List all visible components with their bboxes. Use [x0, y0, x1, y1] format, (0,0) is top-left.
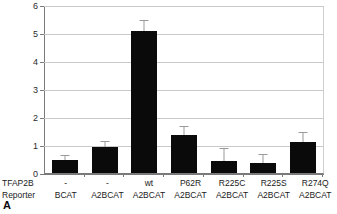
x-category-label: -A2BCAT	[87, 176, 129, 202]
panel-letter: A	[3, 200, 11, 211]
bar	[131, 31, 157, 174]
error-bar-whisker	[64, 156, 65, 159]
bar	[250, 163, 276, 173]
y-tick-mark	[40, 34, 44, 35]
bar	[290, 142, 316, 173]
bar	[211, 161, 237, 173]
x-category-label: -BCAT	[45, 176, 87, 202]
error-bar-whisker	[303, 133, 304, 142]
error-bar-cap	[60, 155, 69, 156]
error-bar-whisker	[104, 142, 105, 148]
error-bar-cap	[259, 154, 268, 155]
x-category-label: R274QA2BCAT	[294, 176, 336, 202]
bar-slot	[85, 6, 125, 173]
y-tick-mark	[40, 90, 44, 91]
error-bar-whisker	[144, 21, 145, 31]
x-category-label: R225CA2BCAT	[211, 176, 253, 202]
x-label-reporter-value: A2BCAT	[257, 189, 289, 201]
y-tick-mark	[40, 118, 44, 119]
bar	[171, 135, 197, 173]
x-label-reporter-value: A2BCAT	[91, 189, 123, 201]
bar	[92, 147, 118, 173]
x-category-label: P62RA2BCAT	[170, 176, 212, 202]
x-label-reporter-value: A2BCAT	[133, 189, 165, 201]
bar-slot	[244, 6, 284, 173]
plot-area: 0123456	[44, 6, 324, 174]
bar-slot	[45, 6, 85, 173]
y-tick-mark	[40, 174, 44, 175]
error-bar-cap	[219, 148, 228, 149]
error-bar-whisker	[263, 155, 264, 163]
row-header-tfap2b: TFAP2B	[2, 177, 34, 189]
bar-slot	[164, 6, 204, 173]
y-axis-tick-label: 6	[33, 2, 38, 11]
error-bar-cap	[180, 126, 189, 127]
bar	[52, 160, 78, 173]
x-label-tfap2b-value: R225S	[261, 177, 287, 189]
x-label-tfap2b-value: R274Q	[302, 177, 329, 189]
x-label-reporter-value: A2BCAT	[299, 189, 331, 201]
bar-slot	[124, 6, 164, 173]
x-label-reporter-value: BCAT	[55, 189, 77, 201]
error-bar-whisker	[184, 127, 185, 135]
error-bar-cap	[100, 141, 109, 142]
error-bar-whisker	[223, 149, 224, 161]
y-tick-mark	[40, 6, 44, 7]
x-label-reporter-value: A2BCAT	[216, 189, 248, 201]
x-axis-labels: TFAP2B Reporter -BCAT-A2BCATwtA2BCATP62R…	[0, 176, 337, 202]
x-category-label: wtA2BCAT	[128, 176, 170, 202]
y-axis-tick-label: 4	[33, 58, 38, 67]
x-category-labels: -BCAT-A2BCATwtA2BCATP62RA2BCATR225CA2BCA…	[44, 176, 337, 202]
y-axis-tick-label: 3	[33, 86, 38, 95]
x-label-tfap2b-value: -	[64, 177, 67, 189]
y-axis-tick-label: 5	[33, 30, 38, 39]
bar-slot	[283, 6, 323, 173]
x-label-tfap2b-value: wt	[145, 177, 154, 189]
x-label-tfap2b-value: R225C	[219, 177, 245, 189]
x-category-label: R225SA2BCAT	[253, 176, 295, 202]
y-tick-mark	[40, 62, 44, 63]
y-axis-tick-label: 2	[33, 114, 38, 123]
bar-slot	[204, 6, 244, 173]
figure-panel-a: 0123456 TFAP2B Reporter -BCAT-A2BCATwtA2…	[0, 0, 337, 214]
error-bar-cap	[299, 132, 308, 133]
x-label-tfap2b-value: -	[106, 177, 109, 189]
error-bar-cap	[140, 20, 149, 21]
bar-series	[45, 6, 323, 173]
y-axis-tick-label: 1	[33, 142, 38, 151]
x-label-reporter-value: A2BCAT	[174, 189, 206, 201]
y-tick-mark	[40, 146, 44, 147]
x-label-tfap2b-value: P62R	[180, 177, 201, 189]
